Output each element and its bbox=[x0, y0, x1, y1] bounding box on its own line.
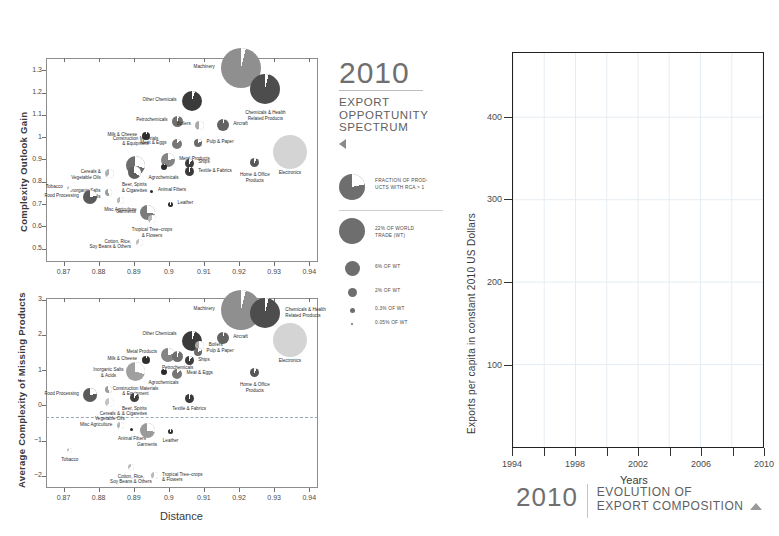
rca-wedge bbox=[136, 239, 143, 246]
bubble-label: Metal Products bbox=[95, 349, 157, 354]
bubble-label: Leather bbox=[178, 200, 240, 205]
caption-line-2: EXPORT COMPOSITION bbox=[597, 500, 744, 514]
y-tick-label: 1.2 bbox=[18, 88, 42, 95]
rca-wedge bbox=[182, 91, 202, 111]
caption-divider bbox=[587, 484, 588, 518]
bubble-label: Chemicals & Health Related Products bbox=[234, 110, 296, 121]
bubble-label: Garments bbox=[74, 209, 136, 214]
x-tick-label: 0.93 bbox=[260, 268, 288, 275]
bubble-label: Tobacco bbox=[39, 457, 101, 462]
bubble-label: Other Chemicals bbox=[115, 97, 177, 102]
bubble-label: Meat & Eggs bbox=[187, 370, 249, 375]
bubble-label: Home & Office Products bbox=[224, 382, 286, 393]
bubble-marker bbox=[151, 472, 158, 479]
bubble-marker bbox=[273, 135, 307, 169]
bubble-marker bbox=[130, 393, 139, 402]
legend-pie-wedge bbox=[339, 174, 365, 200]
bubble-size-legend: FRACTION OF PROD-UCTS WITH RCA > 122% OF… bbox=[339, 170, 449, 340]
legend-divider bbox=[339, 210, 443, 211]
y-tick-label: 0.5 bbox=[18, 244, 42, 251]
area-plot-frame bbox=[512, 52, 764, 448]
rca-wedge bbox=[195, 121, 204, 130]
bubble-label: Food Processing bbox=[17, 391, 79, 396]
triangle-left-icon[interactable] bbox=[339, 139, 346, 149]
x-tick-label-area: 1994 bbox=[496, 459, 528, 469]
legend-size-circle bbox=[345, 261, 360, 276]
caption-block-evolution: 2010 EVOLUTION OF EXPORT COMPOSITION bbox=[516, 484, 762, 518]
bubble-label: Ships bbox=[198, 357, 260, 362]
bubble-marker bbox=[168, 202, 173, 207]
x-tick-label: 0.91 bbox=[190, 268, 218, 275]
legend-size-circle bbox=[339, 218, 365, 244]
caption-year: 2010 bbox=[516, 484, 578, 510]
rca-wedge bbox=[140, 423, 155, 438]
y-tick-label: −2 bbox=[18, 471, 42, 478]
x-tick-label-area: 1998 bbox=[559, 459, 591, 469]
x-tick-label: 0.9 bbox=[155, 494, 183, 501]
legend-size-label: 22% OF WORLD bbox=[375, 226, 414, 232]
rca-wedge bbox=[194, 139, 202, 147]
rca-wedge bbox=[105, 386, 112, 393]
bubble-marker bbox=[136, 239, 143, 246]
bubble-label: Tropical Tree–crops & Flowers bbox=[162, 472, 224, 483]
x-tick-label: 0.88 bbox=[85, 494, 113, 501]
bubble-label: Boilers bbox=[209, 342, 271, 347]
legend-size-label: 6% OF WT bbox=[375, 264, 400, 270]
bubble-marker bbox=[194, 139, 202, 147]
infographic-page: Complexity Outlook Gain 0.50.60.70.80.91… bbox=[0, 0, 779, 536]
rca-wedge bbox=[83, 190, 97, 204]
bubble-marker bbox=[195, 121, 204, 130]
bubble-label: Animal Fibers bbox=[158, 187, 220, 192]
x-tick-label: 0.92 bbox=[225, 268, 253, 275]
bubble-label: Tropical Tree–crops & Flowers bbox=[121, 227, 183, 238]
legend-size-circle bbox=[350, 308, 355, 313]
title-line-1: EXPORT bbox=[339, 96, 431, 109]
x-tick-label: 0.92 bbox=[225, 494, 253, 501]
y-tick-label: 3 bbox=[18, 295, 42, 302]
legend-pie-sample bbox=[339, 174, 365, 200]
bubble-marker bbox=[128, 464, 134, 470]
y-tick-label-area: 400 bbox=[478, 112, 502, 122]
triangle-up-icon[interactable] bbox=[750, 503, 762, 510]
rca-wedge bbox=[172, 139, 182, 149]
scatter-panel-average-complexity: Average Complexity of Missing Products D… bbox=[0, 288, 336, 536]
x-tick-label-area: 2006 bbox=[685, 459, 717, 469]
x-axis-label-distance: Distance bbox=[160, 510, 203, 522]
rca-wedge bbox=[250, 368, 259, 377]
bubble-label: Tobacco bbox=[1, 184, 63, 189]
y-tick-label: 1.3 bbox=[18, 66, 42, 73]
y-tick-label: −1 bbox=[18, 436, 42, 443]
bubble-marker bbox=[172, 369, 182, 379]
rca-wedge bbox=[185, 394, 194, 403]
bubble-label: Milk & Cheese bbox=[75, 356, 137, 361]
legend-size-label-2: TRADE (WT) bbox=[375, 233, 405, 239]
legend-size-circle bbox=[348, 288, 357, 297]
bubble-label: Agrochemicals bbox=[133, 175, 195, 180]
bubble-label: Textile & Fabrics bbox=[198, 168, 260, 173]
bubble-marker bbox=[105, 386, 112, 393]
rca-wedge bbox=[161, 369, 167, 375]
bubble-marker bbox=[194, 348, 202, 356]
x-tick-label: 0.9 bbox=[155, 268, 183, 275]
y-tick-label: 1.1 bbox=[18, 110, 42, 117]
x-tick-label-area: 2002 bbox=[622, 459, 654, 469]
bubble-marker bbox=[83, 190, 97, 204]
bubble-marker bbox=[172, 351, 183, 362]
bubble-marker bbox=[172, 139, 182, 149]
bubble-label: Food Processing bbox=[17, 193, 79, 198]
x-tick-label: 0.94 bbox=[295, 494, 323, 501]
y-tick-label-area: 100 bbox=[478, 360, 502, 370]
bubble-label: Construction Materials & Equipment bbox=[104, 136, 166, 147]
bubble-label: Cereals & Vegetable Oils bbox=[39, 169, 101, 180]
bubble-label: Pulp & Paper bbox=[207, 348, 269, 353]
legend-size-label: 0.3% OF WT bbox=[375, 306, 405, 312]
title-line-3: SPECTRUM bbox=[339, 121, 431, 134]
rca-wedge bbox=[250, 158, 259, 167]
x-tick-label: 0.87 bbox=[50, 268, 78, 275]
bubble-label: Inorganic Salts & Acids bbox=[77, 367, 139, 378]
legend-size-circle bbox=[351, 323, 354, 326]
y-tick-label: 1 bbox=[18, 366, 42, 373]
scatter-panel-complexity-outlook-gain: Complexity Outlook Gain 0.50.60.70.80.91… bbox=[0, 42, 336, 292]
rca-wedge bbox=[128, 464, 134, 470]
y-tick-label: 0.6 bbox=[18, 222, 42, 229]
